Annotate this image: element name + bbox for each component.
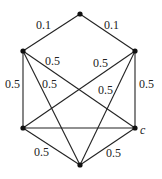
label-ul-lr: 0.5 [45, 54, 60, 68]
label-top-ur: 0.1 [104, 18, 119, 32]
label-ur-lr: 0.5 [139, 77, 154, 91]
node-ll [20, 125, 25, 130]
graph-diagram: 0.1 0.1 0.5 0.5 0.5 0.5 0.5 0.5 0.5 0.5 … [0, 0, 162, 179]
edges [23, 14, 135, 165]
node-ul [20, 48, 25, 53]
node-c-label: c [140, 123, 146, 137]
label-ul-bot: 0.5 [42, 77, 57, 91]
label-ul-ll: 0.5 [5, 77, 20, 91]
edge-ul-bot [23, 51, 80, 165]
label-lr-bot: 0.5 [106, 146, 121, 160]
edge-top-ul [23, 14, 80, 51]
label-top-ul: 0.1 [36, 18, 51, 32]
edge-ll-bot [23, 128, 80, 165]
label-ur-bot: 0.5 [98, 83, 113, 97]
label-ur-ll: 0.5 [93, 56, 108, 70]
node-bot [77, 162, 82, 167]
node-lr [132, 125, 137, 130]
node-ur [132, 48, 137, 53]
label-ll-bot: 0.5 [34, 145, 49, 159]
node-top [77, 11, 82, 16]
